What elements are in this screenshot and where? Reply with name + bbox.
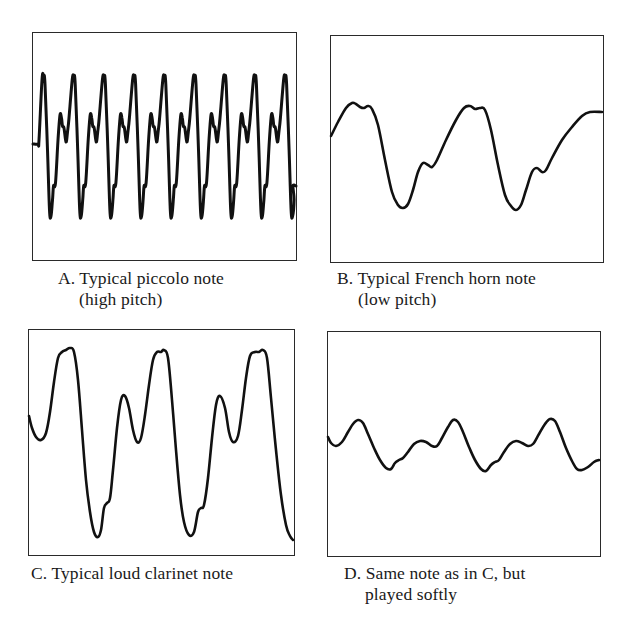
panel-d-waveform xyxy=(0,0,629,635)
panel-d-caption: D. Same note as in C, but played softly xyxy=(344,563,525,605)
panel-d-caption-line1: D. Same note as in C, but xyxy=(344,563,525,583)
panel-d-caption-line2: played softly xyxy=(344,584,525,605)
